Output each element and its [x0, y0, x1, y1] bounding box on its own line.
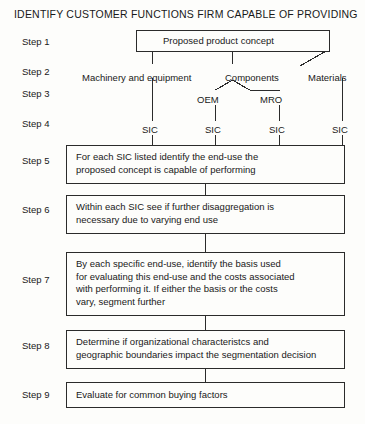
leaf-label-sic-1: SIC [141, 124, 159, 135]
node-step9-text: Evaluate for common buying factors [76, 389, 339, 402]
node-proposed-product-concept[interactable]: Proposed product concept [136, 30, 330, 52]
node-step8-text: Determine if organizational characterist… [76, 336, 339, 361]
step-label-6: Step 6 [22, 204, 49, 215]
branch-label-components: Components [225, 72, 279, 83]
step-label-7: Step 7 [22, 274, 49, 285]
node-step7-text: By each specific end-use, identify the b… [76, 258, 339, 308]
leaf-label-sic-4: SIC [331, 124, 349, 135]
branch-label-machinery-and-equipment: Machinery and equipment [82, 72, 191, 83]
leaf-label-sic-3: SIC [268, 124, 286, 135]
step-label-8: Step 8 [22, 340, 49, 351]
node-proposed-product-concept-text: Proposed product concept [163, 35, 324, 48]
flowchart-page: IDENTIFY CUSTOMER FUNCTIONS FIRM CAPABLE… [0, 0, 365, 424]
node-step5-text: For each SIC listed identify the end-use… [76, 151, 339, 176]
branch-label-materials: Materials [308, 72, 347, 83]
node-step6-text: Within each SIC see if further disaggreg… [76, 201, 339, 226]
step-label-5: Step 5 [22, 155, 49, 166]
line-concept-to-materials [300, 51, 327, 67]
step-label-4: Step 4 [22, 118, 49, 129]
node-step9-box[interactable]: Evaluate for common buying factors [66, 382, 345, 408]
node-step5-box[interactable]: For each SIC listed identify the end-use… [66, 145, 345, 184]
step-label-2: Step 2 [22, 66, 49, 77]
node-step8-box[interactable]: Determine if organizational characterist… [66, 330, 345, 369]
step-label-1: Step 1 [22, 36, 49, 47]
branch-label-oem: OEM [196, 94, 220, 105]
branch-label-mro: MRO [259, 94, 283, 105]
step-label-3: Step 3 [22, 88, 49, 99]
node-step7-box[interactable]: By each specific end-use, identify the b… [66, 252, 345, 316]
leaf-label-sic-2: SIC [204, 124, 222, 135]
step-label-9: Step 9 [22, 389, 49, 400]
node-step6-box[interactable]: Within each SIC see if further disaggreg… [66, 195, 345, 234]
page-title: IDENTIFY CUSTOMER FUNCTIONS FIRM CAPABLE… [14, 8, 358, 20]
